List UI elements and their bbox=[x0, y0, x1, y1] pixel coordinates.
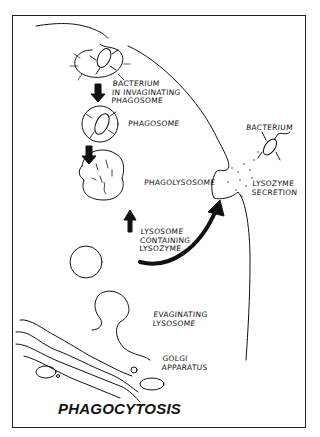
arrow-up-icon bbox=[124, 210, 136, 232]
arrow-down-icon bbox=[82, 146, 96, 164]
label-evaginating-lysosome: EVAGINATING LYSOSOME bbox=[152, 311, 207, 328]
phagosome bbox=[82, 106, 118, 142]
label-golgi: GOLGI APPARATUS bbox=[161, 355, 208, 372]
lysosome bbox=[70, 246, 102, 278]
golgi-apparatus bbox=[20, 320, 132, 376]
bacterium-outside bbox=[261, 137, 280, 157]
cell-membrane bbox=[36, 24, 108, 38]
label-phagolysosome: PHAGOLYSOSOME bbox=[144, 179, 216, 188]
label-phagosome: PHAGOSOME bbox=[128, 120, 180, 129]
label-bacterium-outside: BACTERIUM bbox=[246, 124, 293, 133]
arrow-down-icon bbox=[91, 84, 105, 102]
figure-title: PHAGOCYTOSIS bbox=[58, 400, 181, 417]
phagocytosis-illustration bbox=[0, 0, 320, 437]
label-lysozyme-secretion: LYSOZYME SECRETION bbox=[251, 180, 298, 197]
cell-membrane-right bbox=[128, 46, 229, 172]
invaginating-phagosome bbox=[75, 44, 123, 77]
label-lysosome-containing: LYSOSOME CONTAINING LYSOZYME bbox=[139, 228, 191, 254]
evaginating-lysosome bbox=[98, 291, 150, 360]
label-bacterium-invaginating: BACTERIUM IN INVAGINATING PHAGOSOME bbox=[111, 80, 181, 106]
